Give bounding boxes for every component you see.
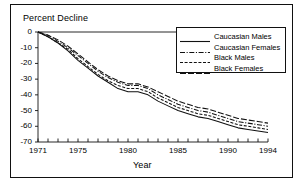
x-tick-label: 1971 <box>23 146 53 155</box>
legend-line-swatch <box>180 43 210 52</box>
y-tick-label: -60 <box>10 121 32 130</box>
y-tick-label: -10 <box>10 43 32 52</box>
y-tick-label: -20 <box>10 58 32 67</box>
legend-item-label: Black Females <box>214 64 263 73</box>
legend-item-label: Caucasian Females <box>214 43 280 52</box>
legend-item-label: Black Males <box>214 53 254 62</box>
legend-line-swatch <box>180 53 210 62</box>
legend-line-swatch <box>180 32 210 41</box>
x-tick-label: 1980 <box>113 146 143 155</box>
y-axis-title: Percent Decline <box>23 13 88 23</box>
legend: Caucasian MalesCaucasian FemalesBlack Ma… <box>176 27 286 73</box>
x-axis-title: Year <box>133 160 152 170</box>
legend-item-label: Caucasian Males <box>214 32 272 41</box>
chart-figure: Percent Decline Year 0-10-20-30-40-50-60… <box>0 0 300 185</box>
legend-item: Black Males <box>180 52 254 63</box>
legend-item: Caucasian Females <box>180 42 280 53</box>
x-tick-label: 1990 <box>213 146 243 155</box>
x-tick-label: 1985 <box>163 146 193 155</box>
x-tick-label: 1975 <box>63 146 93 155</box>
legend-item: Caucasian Males <box>180 31 272 42</box>
x-tick-label: 1994 <box>253 146 283 155</box>
y-tick-label: -30 <box>10 74 32 83</box>
legend-item: Black Females <box>180 63 263 74</box>
legend-line-swatch <box>180 64 210 73</box>
y-tick-label: -50 <box>10 106 32 115</box>
y-tick-label: -70 <box>10 137 32 146</box>
y-tick-label: 0 <box>10 27 32 36</box>
y-tick-label: -40 <box>10 90 32 99</box>
